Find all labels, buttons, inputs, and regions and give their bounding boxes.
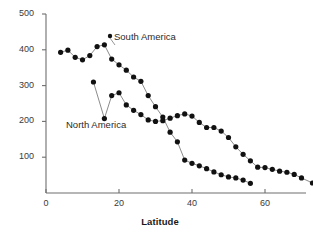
data-point	[299, 175, 304, 180]
data-point	[91, 79, 96, 84]
x-tick-label: 60	[254, 198, 276, 208]
data-point	[197, 120, 202, 125]
data-point	[189, 161, 194, 166]
data-point	[211, 125, 216, 130]
y-tick-label: 500	[8, 8, 34, 18]
data-point	[255, 165, 260, 170]
data-point	[109, 93, 114, 98]
data-point	[168, 130, 173, 135]
data-point	[153, 119, 158, 124]
data-point	[248, 158, 253, 163]
x-tick-label: 0	[35, 198, 57, 208]
data-point	[131, 74, 136, 79]
data-point	[124, 102, 129, 107]
series-label-north-america: North America	[66, 119, 126, 130]
data-point	[116, 90, 121, 95]
data-point	[233, 144, 238, 149]
data-point	[131, 108, 136, 113]
x-tick-label: 20	[108, 198, 130, 208]
data-point	[204, 166, 209, 171]
data-point	[204, 125, 209, 130]
data-point	[153, 104, 158, 109]
data-point	[262, 165, 267, 170]
data-point	[80, 57, 85, 62]
chart-series	[58, 34, 313, 186]
data-point	[241, 178, 246, 183]
data-point	[160, 118, 165, 123]
data-point	[292, 172, 297, 177]
x-tick-label: 40	[181, 198, 203, 208]
data-point	[146, 117, 151, 122]
data-point	[182, 157, 187, 162]
data-point	[219, 128, 224, 133]
data-point	[95, 44, 100, 49]
data-point	[138, 112, 143, 117]
data-point	[284, 170, 289, 175]
data-point	[219, 172, 224, 177]
data-point	[87, 53, 92, 58]
series-label-south-america: South America	[114, 31, 176, 42]
data-point	[270, 167, 275, 172]
data-point	[233, 175, 238, 180]
data-point	[73, 55, 78, 60]
data-point	[211, 169, 216, 174]
data-point	[102, 42, 107, 47]
data-point	[226, 174, 231, 179]
data-point	[226, 135, 231, 140]
data-point	[175, 113, 180, 118]
data-point	[116, 62, 121, 67]
data-point	[189, 113, 194, 118]
data-point	[146, 93, 151, 98]
data-point	[138, 79, 143, 84]
y-tick-label: 400	[8, 44, 34, 54]
x-axis-title: Latitude	[100, 216, 220, 227]
data-point	[124, 68, 129, 73]
y-tick-label: 100	[8, 151, 34, 161]
data-point	[58, 50, 63, 55]
data-point	[248, 181, 253, 186]
data-point	[65, 48, 70, 53]
data-point	[168, 116, 173, 121]
data-point	[182, 111, 187, 116]
y-tick-label: 300	[8, 80, 34, 90]
data-point	[197, 163, 202, 168]
y-tick-label: 200	[8, 115, 34, 125]
data-point	[175, 139, 180, 144]
data-point	[310, 180, 313, 185]
series-line-north-america	[93, 82, 312, 183]
data-point	[109, 57, 114, 62]
series-line-south-america	[61, 45, 251, 184]
data-point	[241, 152, 246, 157]
annotation-leader-dot	[108, 34, 112, 38]
data-point	[277, 169, 282, 174]
species-latitude-chart: No. species Latitude 500400300200100 020…	[0, 0, 313, 238]
